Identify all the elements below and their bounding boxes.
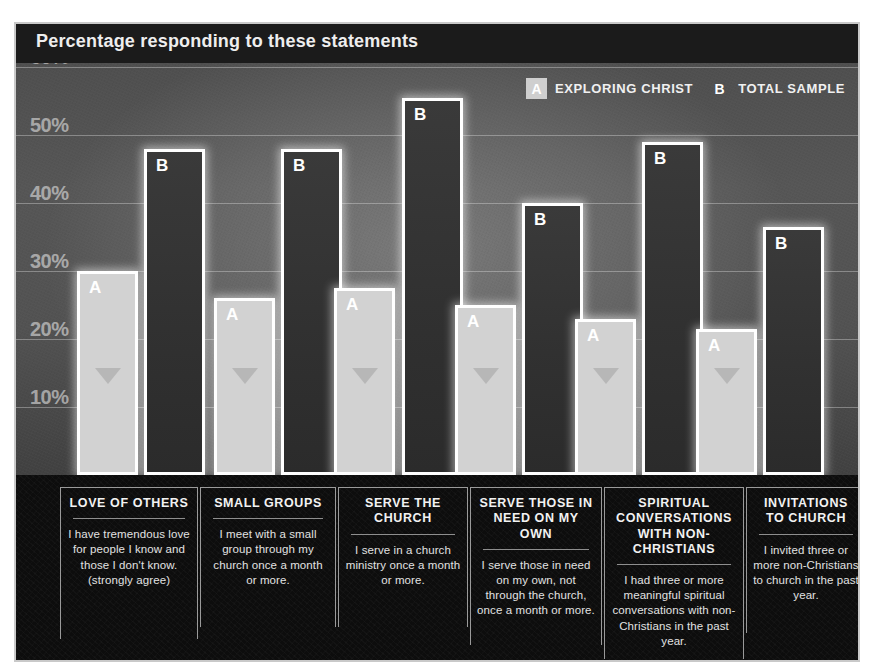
bar-b-group-5: B [642, 142, 703, 475]
bar-b-group-2: B [281, 149, 342, 475]
chevron-down-icon [473, 368, 499, 384]
caption-body: I serve in a church ministry once a mont… [345, 543, 461, 589]
caption-divider [213, 518, 323, 519]
bar-a-group-2: A [214, 298, 275, 475]
caption-band: LOVE OF OTHERSI have tremendous love for… [14, 475, 860, 662]
legend-item-a: AEXPLORING CHRIST [526, 78, 693, 99]
caption-body: I meet with a small group through my chu… [207, 527, 329, 588]
bar-b-group-3: B [402, 98, 463, 475]
caption-body: I had three or more meaningful spiritual… [611, 573, 737, 649]
bar-a-group-1: A [77, 271, 138, 475]
legend-swatch-b: B [709, 78, 730, 99]
caption-card-4: SERVE THOSE IN NEED ON MY OWNI serve tho… [470, 487, 602, 645]
legend-item-b: BTOTAL SAMPLE [709, 78, 845, 99]
chevron-down-icon [714, 368, 740, 384]
chart-screenshot: 10%20%30%40%50%60% ABABABABABAB Percenta… [0, 0, 874, 670]
legend-label: TOTAL SAMPLE [738, 81, 845, 96]
bar-letter-b: B [156, 157, 168, 174]
caption-body: I invited three or more non-Christians t… [753, 543, 859, 604]
chevron-down-icon [352, 368, 378, 384]
caption-card-3: SERVE THE CHURCHI serve in a church mini… [338, 487, 468, 627]
bar-b-group-6: B [763, 227, 824, 475]
caption-title: LOVE OF OTHERS [67, 496, 191, 511]
caption-card-2: SMALL GROUPSI meet with a small group th… [200, 487, 336, 627]
bar-letter-b: B [534, 211, 546, 228]
caption-title: SERVE THE CHURCH [345, 496, 461, 527]
caption-card-5: SPIRITUAL CONVERSATIONS WITH NON-CHRISTI… [604, 487, 744, 659]
bar-letter-b: B [293, 157, 305, 174]
caption-divider [759, 534, 853, 535]
caption-title: SERVE THOSE IN NEED ON MY OWN [477, 496, 595, 542]
bar-letter-a: A [708, 337, 720, 354]
bar-letter-b: B [414, 106, 426, 123]
caption-divider [73, 518, 185, 519]
bar-a-group-3: A [334, 288, 395, 475]
legend-swatch-a: A [526, 78, 547, 99]
bar-letter-a: A [467, 313, 479, 330]
bar-a-group-4: A [455, 305, 516, 475]
bar-letter-b: B [775, 235, 787, 252]
legend-label: EXPLORING CHRIST [555, 81, 693, 96]
caption-title: SPIRITUAL CONVERSATIONS WITH NON-CHRISTI… [611, 496, 737, 557]
caption-body: I serve those in need on my own, not thr… [477, 558, 595, 619]
chevron-down-icon [232, 368, 258, 384]
bar-b-group-4: B [522, 203, 583, 475]
chart-legend: AEXPLORING CHRISTBTOTAL SAMPLE [526, 78, 845, 99]
bar-b-group-1: B [144, 149, 205, 475]
caption-divider [351, 534, 455, 535]
page-title: Percentage responding to these statement… [36, 31, 418, 52]
bar-letter-a: A [587, 327, 599, 344]
bar-letter-a: A [89, 279, 101, 296]
caption-title: SMALL GROUPS [207, 496, 329, 511]
caption-divider [483, 549, 589, 550]
bar-letter-a: A [346, 296, 358, 313]
caption-title: INVITATIONS TO CHURCH [753, 496, 859, 527]
chevron-down-icon [593, 368, 619, 384]
caption-body: I have tremendous love for people I know… [67, 527, 191, 588]
bar-a-group-5: A [575, 319, 636, 475]
chevron-down-icon [95, 368, 121, 384]
bar-letter-b: B [654, 150, 666, 167]
bar-letter-a: A [226, 306, 238, 323]
caption-card-1: LOVE OF OTHERSI have tremendous love for… [60, 487, 198, 639]
caption-card-6: INVITATIONS TO CHURCHI invited three or … [746, 487, 860, 633]
chart-title-bar: Percentage responding to these statement… [14, 22, 860, 63]
chart-poster: 10%20%30%40%50%60% ABABABABABAB Percenta… [14, 22, 860, 662]
caption-divider [617, 564, 731, 565]
bar-a-group-6: A [696, 329, 757, 475]
